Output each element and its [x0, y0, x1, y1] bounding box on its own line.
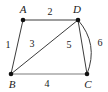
edge-weight-B-D: 3: [30, 39, 35, 49]
vertex-dot-A: [21, 18, 26, 23]
graph-vertices: [9, 18, 90, 77]
weighted-graph-figure: A D B C 1 2 3 4 5 6: [0, 0, 108, 92]
edge-D-C-arc: [78, 20, 91, 74]
vertex-dot-D: [76, 18, 81, 23]
edge-weight-D-C-straight: 5: [67, 40, 72, 50]
graph-canvas: [0, 0, 108, 92]
edge-weight-A-D: 2: [48, 7, 53, 17]
vertex-label-B: B: [9, 79, 16, 90]
edge-D-C-straight: [78, 20, 87, 74]
edge-weight-B-C: 4: [45, 79, 50, 89]
vertex-dot-C: [85, 72, 90, 77]
graph-edges: [11, 20, 91, 74]
vertex-label-C: C: [84, 79, 91, 90]
vertex-label-A: A: [20, 4, 27, 15]
vertex-label-D: D: [73, 4, 81, 15]
edge-weight-D-C-arc: 6: [98, 38, 103, 48]
edge-weight-A-B: 1: [6, 40, 11, 50]
vertex-dot-B: [9, 72, 14, 77]
